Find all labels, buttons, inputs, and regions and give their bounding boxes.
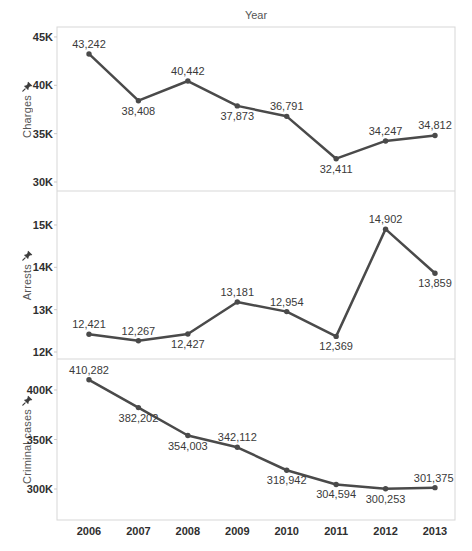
data-point-label: 12,427 [171, 338, 205, 350]
y-tick-label: 12K [33, 346, 53, 358]
data-point[interactable] [86, 51, 91, 56]
data-point[interactable] [383, 486, 388, 491]
data-point-label: 301,375 [414, 472, 454, 484]
y-tick-label: 30K [33, 176, 53, 188]
data-point[interactable] [432, 271, 437, 276]
data-point[interactable] [86, 331, 91, 336]
data-point[interactable] [185, 78, 190, 83]
data-point-label: 12,267 [122, 325, 156, 337]
data-point-label: 12,421 [72, 318, 106, 330]
data-point-label: 37,873 [220, 110, 254, 122]
multi-panel-line-chart: Year Charges Arrests Criminal cases 30K3… [0, 0, 472, 551]
data-point-label: 410,282 [69, 364, 109, 376]
data-point-label: 40,442 [171, 65, 205, 77]
series-line-criminal-cases [89, 380, 435, 489]
data-point[interactable] [383, 226, 388, 231]
x-tick-label: 2010 [274, 525, 298, 537]
y-tick-label: 14K [33, 261, 53, 273]
data-point-label: 13,859 [418, 277, 452, 289]
data-point[interactable] [284, 468, 289, 473]
data-point[interactable] [333, 156, 338, 161]
data-point-label: 14,902 [369, 213, 403, 225]
data-point-label: 32,411 [320, 163, 353, 175]
data-point[interactable] [432, 133, 437, 138]
x-tick-label: 2009 [225, 525, 249, 537]
data-point[interactable] [235, 445, 240, 450]
data-point[interactable] [235, 299, 240, 304]
data-point-label: 36,791 [270, 100, 304, 112]
data-point[interactable] [383, 138, 388, 143]
data-point-label: 43,242 [72, 38, 106, 50]
data-point[interactable] [136, 98, 141, 103]
y-tick-label: 13K [33, 304, 53, 316]
data-point-label: 12,954 [270, 296, 304, 308]
data-point[interactable] [86, 377, 91, 382]
data-point-label: 13,181 [220, 286, 254, 298]
data-point-label: 304,594 [316, 488, 356, 500]
data-point-label: 382,202 [119, 412, 159, 424]
pane-border [57, 27, 455, 520]
data-point[interactable] [284, 114, 289, 119]
data-point[interactable] [136, 338, 141, 343]
plot-area: 30K35K40K45K43,24238,40840,44237,87336,7… [0, 0, 472, 551]
data-point-label: 34,812 [418, 119, 452, 131]
data-point-label: 12,369 [319, 340, 353, 352]
data-point[interactable] [235, 103, 240, 108]
y-tick-label: 40K [33, 79, 53, 91]
y-tick-label: 15K [33, 219, 53, 231]
y-tick-label: 300K [27, 483, 53, 495]
x-tick-label: 2008 [176, 525, 200, 537]
x-tick-label: 2011 [324, 525, 348, 537]
y-tick-label: 400K [27, 384, 53, 396]
x-tick-label: 2012 [373, 525, 397, 537]
data-point-label: 354,003 [168, 440, 208, 452]
data-point[interactable] [333, 482, 338, 487]
data-point[interactable] [432, 485, 437, 490]
x-tick-label: 2013 [423, 525, 447, 537]
x-tick-label: 2007 [126, 525, 150, 537]
data-point[interactable] [185, 433, 190, 438]
y-tick-label: 35K [33, 128, 53, 140]
data-point-label: 342,112 [218, 431, 257, 443]
data-point-label: 300,253 [366, 493, 406, 505]
data-point-label: 34,247 [369, 125, 403, 137]
data-point[interactable] [333, 334, 338, 339]
data-point[interactable] [284, 309, 289, 314]
data-point-label: 38,408 [122, 105, 156, 117]
x-tick-label: 2006 [77, 525, 101, 537]
data-point[interactable] [185, 331, 190, 336]
y-tick-label: 350K [27, 434, 53, 446]
data-point[interactable] [136, 405, 141, 410]
data-point-label: 318,942 [267, 474, 307, 486]
y-tick-label: 45K [33, 31, 53, 43]
